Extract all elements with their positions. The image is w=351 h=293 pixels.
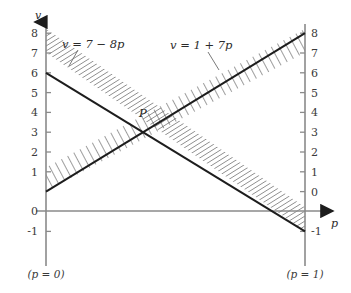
figure-canvas: 8 7 6 5 4 3 2 1 0 -1 8 7 6 5 4 3 2 1 0 -… (0, 0, 351, 293)
right-tick-7: 7 (311, 47, 318, 60)
leader-rising (208, 52, 219, 70)
left-tick-7: 7 (31, 47, 38, 60)
right-tick-3: 3 (311, 126, 318, 139)
right-tick-8: 8 (311, 27, 318, 40)
right-tick-5: 5 (311, 87, 318, 100)
right-tick-4: 4 (311, 106, 318, 119)
equation-rising-label: v = 1 + 7p (170, 38, 233, 52)
left-tick-2: 2 (31, 146, 38, 159)
left-tick-neg1: -1 (27, 225, 38, 238)
right-tick-neg1: -1 (311, 225, 322, 238)
left-tick-5: 5 (31, 87, 38, 100)
p-axis-label: p (331, 217, 338, 230)
shaded-regions (46, 29, 305, 231)
left-foot-label: (p = 0) (27, 268, 64, 280)
left-tick-4: 4 (31, 106, 38, 119)
left-tick-3: 3 (31, 126, 38, 139)
right-foot-label: (p = 1) (286, 268, 323, 280)
right-tick-6: 6 (311, 67, 318, 80)
left-tick-1: 1 (31, 166, 38, 179)
right-tick-0: 0 (311, 186, 318, 199)
left-tick-0: 0 (31, 205, 38, 218)
v-axis-label: v (35, 9, 42, 22)
left-tick-6: 6 (31, 67, 38, 80)
intersection-point-label: P (138, 106, 147, 120)
graph-svg: 8 7 6 5 4 3 2 1 0 -1 8 7 6 5 4 3 2 1 0 -… (0, 0, 351, 293)
right-tick-2: 2 (311, 146, 318, 159)
right-tick-1: 1 (311, 166, 318, 179)
equation-falling-label: v = 7 − 8p (62, 37, 125, 51)
left-tick-8: 8 (31, 27, 38, 40)
